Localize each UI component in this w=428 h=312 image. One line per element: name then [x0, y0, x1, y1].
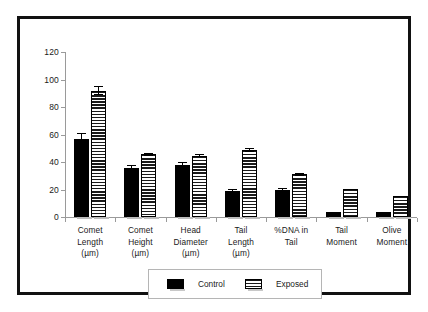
y-axis-tick-label: 80 — [49, 102, 59, 112]
error-bar-cap-bottom — [245, 151, 254, 152]
error-bar-cap-bottom — [77, 143, 86, 144]
y-axis-line — [65, 52, 66, 217]
category-label-line: Head — [166, 225, 216, 237]
x-axis-tick — [367, 218, 368, 222]
bar-exposed[interactable] — [141, 154, 156, 217]
bar-exposed[interactable] — [192, 156, 207, 217]
y-axis-tick — [61, 80, 65, 81]
error-bar-cap-top — [228, 189, 237, 190]
error-bar-cap-top — [77, 133, 86, 134]
error-bar-cap-bottom — [295, 175, 304, 176]
error-bar-cap-top — [178, 162, 187, 163]
y-axis-tick-label: 20 — [49, 185, 59, 195]
bar-exposed[interactable] — [393, 196, 408, 217]
x-axis-category-label: CometHeight(µm) — [115, 225, 165, 260]
bar-shadow — [396, 217, 411, 219]
bar-control[interactable] — [124, 168, 139, 218]
bar-control[interactable] — [275, 190, 290, 217]
bar-slot — [141, 52, 156, 217]
y-axis-tick-label: 120 — [44, 47, 59, 57]
x-axis-category-label: TailMoment — [316, 225, 366, 248]
bar-slot — [292, 52, 307, 217]
bar-slot — [376, 52, 391, 217]
bar-control[interactable] — [74, 139, 89, 217]
bar-shadow — [94, 217, 109, 219]
x-axis-tick — [115, 218, 116, 222]
bar-shadow — [195, 217, 210, 219]
bar-slot — [343, 52, 358, 217]
y-axis-tick — [61, 162, 65, 163]
bar-control[interactable] — [376, 212, 391, 217]
x-axis-category-label: %DNA inTail — [266, 225, 316, 248]
category-label-line: (µm) — [216, 248, 266, 260]
category-label-line: Tail — [216, 225, 266, 237]
bar-shadow — [346, 217, 361, 219]
chart-figure: 020406080100120 CometLength(µm)CometHeig… — [0, 0, 428, 312]
category-label-line: Comet — [65, 225, 115, 237]
bar-control[interactable] — [225, 191, 240, 217]
bar-exposed[interactable] — [91, 91, 106, 218]
category-label-line: Tail — [316, 225, 366, 237]
category-label-line: Moment — [367, 237, 417, 249]
chart-legend: ControlExposed — [148, 269, 322, 299]
y-axis-tick — [61, 52, 65, 53]
legend-label: Control — [198, 279, 225, 289]
bar-slot — [192, 52, 207, 217]
x-axis-tick — [65, 218, 66, 222]
error-bar-cap-bottom — [94, 94, 103, 95]
bar-shadow — [144, 217, 159, 219]
x-axis-category-label: CometLength(µm) — [65, 225, 115, 260]
error-bar-cap-bottom — [195, 156, 204, 157]
category-label-line: Diameter — [166, 237, 216, 249]
error-bar-cap-bottom — [144, 155, 153, 156]
bar-exposed[interactable] — [292, 174, 307, 217]
plot-area: 020406080100120 CometLength(µm)CometHeig… — [65, 52, 417, 217]
x-axis-category-label: HeadDiameter(µm) — [166, 225, 216, 260]
striped-swatch — [245, 279, 262, 289]
bar-shadow — [178, 217, 193, 219]
y-axis-tick — [61, 135, 65, 136]
bar-exposed[interactable] — [343, 189, 358, 217]
bar-shadow — [295, 217, 310, 219]
legend-entry[interactable]: Control — [167, 279, 225, 289]
bar-shadow — [127, 217, 142, 219]
x-axis-tick — [216, 218, 217, 222]
error-bar-cap-top — [245, 148, 254, 149]
figure-frame: 020406080100120 CometLength(µm)CometHeig… — [17, 16, 411, 295]
bar-slot — [326, 52, 341, 217]
error-bar-cap-top — [94, 86, 103, 87]
y-axis-tick-label: 60 — [49, 130, 59, 140]
legend-swatch-shadow — [248, 289, 263, 291]
x-axis-category-label: OliveMoment — [367, 225, 417, 248]
category-label-line: Tail — [266, 237, 316, 249]
category-label-line: %DNA in — [266, 225, 316, 237]
bar-slot — [393, 52, 408, 217]
bar-shadow — [278, 217, 293, 219]
category-label-line: (µm) — [166, 248, 216, 260]
solid-black-swatch — [167, 279, 184, 289]
category-label-line: Comet — [115, 225, 165, 237]
bar-slot — [124, 52, 139, 217]
y-axis-tick — [61, 107, 65, 108]
error-bar-cap-bottom — [127, 169, 136, 170]
bar-shadow — [77, 217, 92, 219]
x-axis-tick — [316, 218, 317, 222]
category-label-line: (µm) — [115, 248, 165, 260]
legend-entry[interactable]: Exposed — [245, 279, 308, 289]
y-axis-tick-label: 0 — [54, 212, 59, 222]
error-bar-cap-bottom — [178, 168, 187, 169]
x-axis-tick — [166, 218, 167, 222]
bar-exposed[interactable] — [242, 150, 257, 217]
bar-shadow — [245, 217, 260, 219]
bar-slot — [242, 52, 257, 217]
legend-swatch-shadow — [170, 289, 185, 291]
x-axis-tick — [266, 218, 267, 222]
error-bar-cap-top — [278, 188, 287, 189]
bar-control[interactable] — [175, 165, 190, 217]
bar-slot — [275, 52, 290, 217]
bar-control[interactable] — [326, 212, 341, 217]
category-label-line: Moment — [316, 237, 366, 249]
x-axis-category-label: TailLength(µm) — [216, 225, 266, 260]
y-axis-tick — [61, 190, 65, 191]
x-axis-tick — [417, 218, 418, 222]
